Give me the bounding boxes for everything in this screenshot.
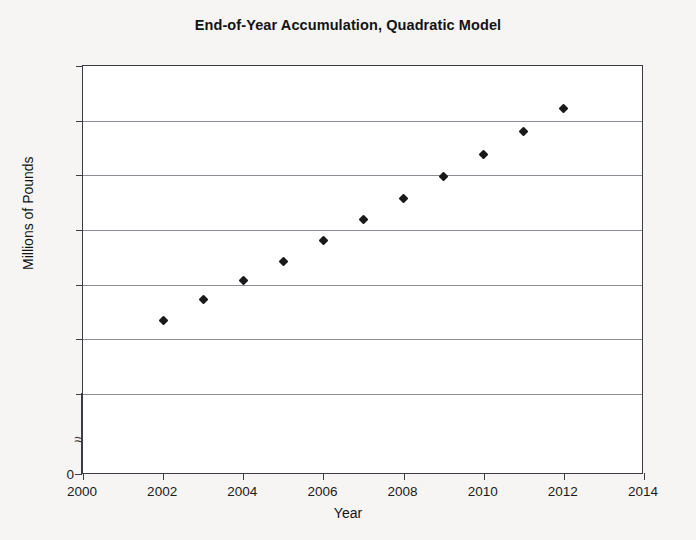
y-tick-mark-13 bbox=[76, 230, 83, 231]
data-point bbox=[439, 171, 449, 181]
x-tick-label-2014: 2014 bbox=[628, 484, 658, 499]
y-tick-mark-14 bbox=[76, 175, 83, 176]
y-tick-mark-11 bbox=[76, 339, 83, 340]
x-tick-mark-2012 bbox=[564, 473, 565, 480]
plot-area bbox=[82, 65, 643, 474]
gridline bbox=[83, 230, 642, 231]
x-tick-mark-2014 bbox=[644, 473, 645, 480]
x-tick-mark-2002 bbox=[163, 473, 164, 480]
gridline bbox=[83, 339, 642, 340]
x-tick-label-2004: 2004 bbox=[227, 484, 257, 499]
x-axis-title: Year bbox=[0, 505, 696, 521]
data-point bbox=[158, 315, 168, 325]
y-tick-mark-12 bbox=[76, 285, 83, 286]
x-tick-mark-2010 bbox=[484, 473, 485, 480]
y-tick-mark-10 bbox=[76, 394, 83, 395]
y-tick-label-0: 0 bbox=[58, 467, 74, 482]
y-tick-mark-16 bbox=[76, 66, 83, 67]
y-tick-mark-15 bbox=[76, 121, 83, 122]
y-axis-title: Millions of Pounds bbox=[20, 156, 36, 270]
gridline bbox=[83, 121, 642, 122]
data-point bbox=[519, 127, 529, 137]
x-tick-label-2010: 2010 bbox=[468, 484, 498, 499]
x-tick-mark-2006 bbox=[323, 473, 324, 480]
data-point bbox=[479, 150, 489, 160]
data-point bbox=[559, 104, 569, 114]
x-tick-label-2006: 2006 bbox=[307, 484, 337, 499]
x-tick-mark-2004 bbox=[243, 473, 244, 480]
gridline bbox=[83, 175, 642, 176]
data-point bbox=[359, 214, 369, 224]
figure: End-of-Year Accumulation, Quadratic Mode… bbox=[0, 0, 696, 540]
chart-title: End-of-Year Accumulation, Quadratic Mode… bbox=[0, 17, 696, 33]
y-tick-mark-0 bbox=[75, 474, 82, 475]
gridline bbox=[83, 394, 642, 395]
x-tick-label-2008: 2008 bbox=[388, 484, 418, 499]
data-point bbox=[399, 193, 409, 203]
x-tick-label-2000: 2000 bbox=[67, 484, 97, 499]
data-point bbox=[278, 257, 288, 267]
data-point bbox=[198, 295, 208, 305]
x-tick-mark-2000 bbox=[83, 473, 84, 480]
data-point bbox=[318, 236, 328, 246]
x-tick-label-2002: 2002 bbox=[147, 484, 177, 499]
x-tick-mark-2008 bbox=[404, 473, 405, 480]
gridline bbox=[83, 285, 642, 286]
x-tick-label-2012: 2012 bbox=[548, 484, 578, 499]
